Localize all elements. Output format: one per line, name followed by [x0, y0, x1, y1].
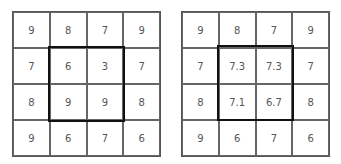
output-grid: 987977.37.3787.16.789676: [181, 11, 330, 157]
grid-cell: 6: [219, 120, 256, 156]
grid-cell: 9: [13, 12, 50, 48]
grid-cell: 9: [123, 12, 160, 48]
grid-cell: 7: [123, 48, 160, 84]
grid-cell: 8: [182, 84, 219, 120]
grid-cell: 7.1: [219, 84, 256, 120]
grid-cell: 6: [123, 120, 160, 156]
grid-cell: 6: [292, 120, 329, 156]
grid-cell: 7.3: [219, 48, 256, 84]
grid-cell: 9: [87, 84, 124, 120]
grid-cell: 9: [182, 12, 219, 48]
grid-cell: 7: [182, 48, 219, 84]
grid-cell: 7: [87, 120, 124, 156]
grid-cell: 6: [50, 48, 87, 84]
grid-cell: 7.3: [256, 48, 293, 84]
grid-cell: 7: [256, 12, 293, 48]
grid-cell: 9: [292, 12, 329, 48]
grid-cell: 9: [13, 120, 50, 156]
grid-cell: 9: [50, 84, 87, 120]
grid-cell: 8: [123, 84, 160, 120]
grid-cell: 6.7: [256, 84, 293, 120]
grid-cell: 7: [13, 48, 50, 84]
grid-cell: 8: [50, 12, 87, 48]
grid-cell: 6: [50, 120, 87, 156]
grid-cell: 8: [13, 84, 50, 120]
grid-cell: 8: [219, 12, 256, 48]
input-grid: 9879763789989676: [12, 11, 161, 157]
grid-cell: 8: [292, 84, 329, 120]
grid-cell: 7: [256, 120, 293, 156]
grid-cell: 7: [292, 48, 329, 84]
grid-cell: 7: [87, 12, 124, 48]
grid-cell: 3: [87, 48, 124, 84]
grid-cell: 9: [182, 120, 219, 156]
